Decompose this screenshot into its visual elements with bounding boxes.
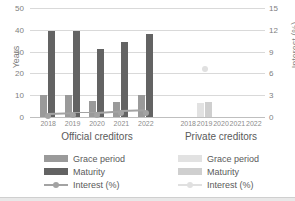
- legend-line-marker-icon: [178, 181, 202, 188]
- legend-swatch-icon: [178, 168, 202, 175]
- bar-group-1: [30, 8, 265, 117]
- bar-grace-period: [197, 103, 204, 117]
- legend-private-creditors: Grace periodMaturityInterest (%): [178, 152, 259, 191]
- x-tick-2019: 2019: [197, 120, 213, 127]
- legend-label: Grace period: [73, 154, 125, 164]
- x-tick-2022: 2022: [138, 120, 154, 127]
- y-tick-left-20: 20: [0, 69, 24, 78]
- x-tick-2022: 2022: [246, 120, 262, 127]
- legend-item-private-1[interactable]: Maturity: [178, 165, 259, 178]
- x-tick-2018: 2018: [180, 120, 196, 127]
- legend-swatch-icon: [178, 155, 202, 162]
- legend-item-official-0[interactable]: Grace period: [44, 152, 125, 165]
- gridline-0: [30, 117, 265, 118]
- plot-area: [30, 8, 265, 117]
- legend-swatch-icon: [44, 168, 68, 175]
- legend-label: Maturity: [207, 167, 239, 177]
- legend-item-official-1[interactable]: Maturity: [44, 165, 125, 178]
- legend-line-marker-icon: [44, 181, 68, 188]
- x-tick-2020: 2020: [89, 120, 105, 127]
- y-tick-right-6: 6: [269, 69, 291, 78]
- bar-cluster: [229, 8, 245, 117]
- bar-cluster: [180, 8, 196, 117]
- legend-item-private-2[interactable]: Interest (%): [178, 178, 259, 191]
- legend-label: Maturity: [73, 167, 105, 177]
- legend-label: Interest (%): [207, 180, 254, 190]
- legend-item-official-2[interactable]: Interest (%): [44, 178, 125, 191]
- legend-label: Interest (%): [73, 180, 120, 190]
- legend-official-creditors: Grace periodMaturityInterest (%): [44, 152, 125, 191]
- y-tick-left-0: 0: [0, 113, 24, 122]
- x-tick-2021: 2021: [114, 120, 130, 127]
- x-tick-2021: 2021: [230, 120, 246, 127]
- interest-marker: [202, 66, 208, 72]
- bar-cluster: [246, 8, 262, 117]
- legend-item-private-0[interactable]: Grace period: [178, 152, 259, 165]
- y-tick-right-9: 9: [269, 47, 291, 56]
- group-title-1: Private creditors: [185, 131, 257, 142]
- bar-maturity: [205, 102, 212, 117]
- legend-swatch-icon: [44, 155, 68, 162]
- bottom-divider: [0, 197, 295, 201]
- y-tick-right-15: 15: [269, 4, 291, 13]
- y-tick-right-12: 12: [269, 25, 291, 34]
- x-tick-2019: 2019: [65, 120, 81, 127]
- x-tick-2020: 2020: [213, 120, 229, 127]
- bar-cluster: [197, 8, 213, 117]
- legend-label: Grace period: [207, 154, 259, 164]
- y-tick-left-40: 40: [0, 25, 24, 34]
- y-tick-left-10: 10: [0, 91, 24, 100]
- y-tick-right-3: 3: [269, 91, 291, 100]
- y-tick-right-0: 0: [269, 113, 291, 122]
- x-tick-2018: 2018: [40, 120, 56, 127]
- chart-container: Years Interest (%) 50 40 30 20 10 0 15 1…: [0, 0, 295, 201]
- bar-cluster: [213, 8, 229, 117]
- y-tick-left-50: 50: [0, 4, 24, 13]
- group-title-0: Official creditors: [61, 131, 133, 142]
- y-tick-left-30: 30: [0, 47, 24, 56]
